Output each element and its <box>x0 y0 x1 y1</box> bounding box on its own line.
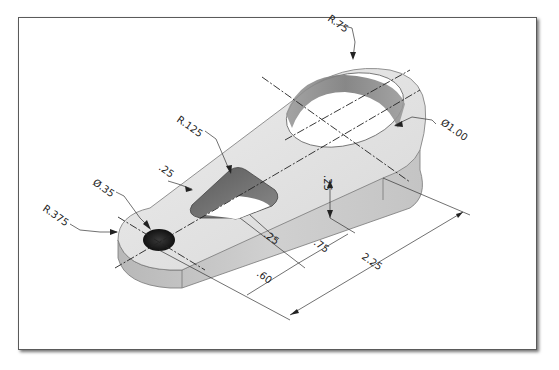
label-d100: Ø1.00 <box>439 117 470 143</box>
label-r75: R.75 <box>326 13 351 35</box>
label-d35: Ø.35 <box>91 177 117 200</box>
label-slot-start: .60 <box>255 268 274 286</box>
isometric-drawing: R.75 Ø1.00 R.125 .25 Ø.35 R.375 .25 .25 … <box>0 0 559 370</box>
small-hole <box>143 229 175 251</box>
label-slot-offset: .25 <box>157 162 176 180</box>
label-center-distance: 2.25 <box>360 251 385 273</box>
label-thickness: .25 <box>322 175 333 191</box>
label-r375: R.375 <box>41 203 71 229</box>
label-r125: R.125 <box>175 114 205 140</box>
